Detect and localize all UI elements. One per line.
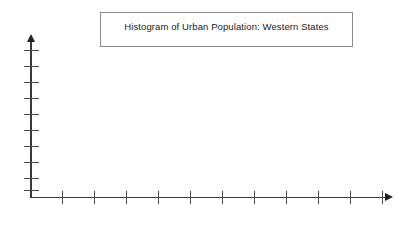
- x-axis-tick: [254, 191, 255, 204]
- chart-canvas: Histogram of Urban Population: Western S…: [0, 0, 405, 225]
- y-axis-tick: [24, 114, 39, 115]
- y-axis-tick: [24, 178, 39, 179]
- x-axis-tick: [350, 191, 351, 204]
- y-axis-line: [30, 41, 32, 198]
- x-axis-tick: [382, 191, 383, 204]
- x-axis-arrow-icon: [385, 193, 393, 201]
- y-axis-tick: [24, 190, 39, 191]
- x-axis-tick: [126, 191, 127, 204]
- y-axis-tick: [24, 98, 39, 99]
- x-axis-tick: [222, 191, 223, 204]
- x-axis-line: [30, 197, 389, 199]
- y-axis-tick: [24, 50, 39, 51]
- y-axis-tick: [24, 146, 39, 147]
- x-axis-tick: [286, 191, 287, 204]
- x-axis-tick: [94, 191, 95, 204]
- y-axis-tick: [24, 130, 39, 131]
- y-axis-tick: [24, 66, 39, 67]
- x-axis-tick: [158, 191, 159, 204]
- y-axis-tick: [24, 82, 39, 83]
- y-axis-arrow-icon: [27, 34, 35, 42]
- x-axis-tick: [318, 191, 319, 204]
- x-axis-tick: [190, 191, 191, 204]
- y-axis-tick: [24, 162, 39, 163]
- plot-area: [0, 0, 405, 225]
- x-axis-tick: [62, 191, 63, 204]
